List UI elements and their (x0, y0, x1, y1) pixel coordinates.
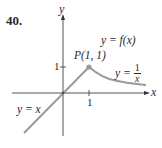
y-axis-label: y (59, 3, 64, 15)
function-label: y = f(x) (101, 35, 136, 47)
right-piece-prefix: y = (115, 68, 131, 80)
right-piece-label: y = 1 x (115, 63, 141, 85)
x-tick-label: 1 (87, 97, 93, 108)
point-label: P(1, 1) (74, 50, 106, 62)
point-p (86, 64, 91, 69)
y-tick-label: 1 (54, 61, 60, 72)
fraction: 1 x (134, 63, 141, 85)
x-axis-label: x (151, 86, 156, 98)
line-y-equals-x (24, 67, 89, 133)
x-axis-arrow-icon (144, 91, 150, 95)
origin-dot (62, 92, 65, 95)
fraction-denominator: x (135, 74, 139, 85)
problem-number: 40. (6, 14, 22, 27)
left-piece-label: y = x (17, 104, 41, 116)
